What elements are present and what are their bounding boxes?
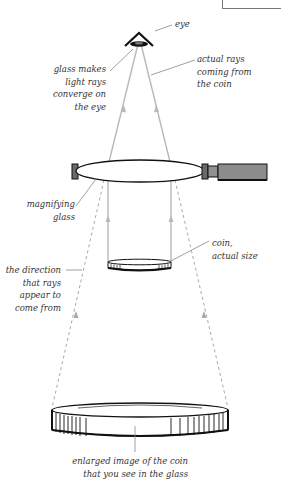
actual-rays [108, 44, 171, 262]
label-coin-actual: coin, actual size [212, 237, 258, 262]
magnifying-glass [72, 160, 267, 182]
coin-actual [108, 259, 171, 270]
eye-icon [125, 33, 153, 47]
label-eye: eye [175, 18, 190, 31]
label-actual-rays: actual rays coming from the coin [197, 53, 252, 91]
label-enlarged: enlarged image of the coin that you see … [72, 455, 188, 480]
label-direction: the direction that rays appear to come f… [6, 264, 61, 314]
coin-enlarged [52, 403, 228, 436]
magnifying-glass-diagram: eye glass makes light rays converge on t… [0, 0, 281, 485]
apparent-rays [52, 180, 228, 408]
apparent-ray-arrows [74, 311, 207, 318]
label-magnifying-glass: magnifying glass [27, 198, 75, 223]
label-converge: glass makes light rays converge on the e… [53, 63, 106, 113]
